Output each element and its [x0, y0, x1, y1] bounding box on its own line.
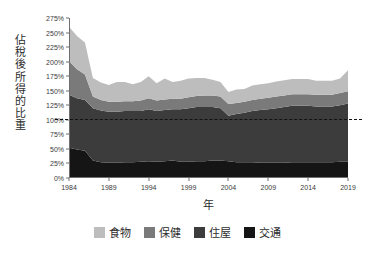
legend-swatch-icon [194, 227, 205, 238]
y-tick-label: 200% [46, 58, 64, 65]
y-tick-label: 250% [46, 29, 64, 36]
x-tick-mark [188, 178, 189, 181]
y-tick-label: 75% [50, 131, 64, 138]
y-tick-mark [66, 32, 69, 33]
x-tick-label: 2019 [340, 184, 356, 191]
legend-swatch-icon [144, 227, 155, 238]
legend-item[interactable]: 住屋 [194, 224, 231, 240]
y-tick-label: 150% [46, 87, 64, 94]
x-tick-label: 1994 [141, 184, 157, 191]
reference-line-100-percent [55, 119, 362, 120]
x-tick-label: 1984 [61, 184, 77, 191]
y-tick-mark [66, 90, 69, 91]
y-axis-title-char: 所 [13, 71, 28, 83]
y-axis-title-char: 後 [13, 58, 28, 70]
plot-area: 0%25%50%75%100%125%150%175%200%225%250%2… [69, 18, 348, 178]
x-tick-mark [268, 178, 269, 181]
y-axis-title: 佔稅後所得的比重 [13, 34, 28, 132]
legend-item[interactable]: 保健 [144, 224, 181, 240]
y-axis-title-char: 佔 [13, 34, 28, 46]
y-tick-mark [66, 47, 69, 48]
x-tick-label: 2004 [221, 184, 237, 191]
x-tick-mark [69, 178, 70, 181]
x-axis-title: 年 [69, 196, 348, 212]
legend-item[interactable]: 食物 [94, 224, 131, 240]
y-tick-mark [66, 134, 69, 135]
x-tick-label: 2014 [300, 184, 316, 191]
chart-legend: 食物保健住屋交通 [0, 224, 375, 240]
y-tick-label: 225% [46, 44, 64, 51]
x-tick-label: 2009 [260, 184, 276, 191]
y-tick-mark [66, 163, 69, 164]
y-axis-title-char: 比 [13, 107, 28, 119]
y-tick-mark [66, 18, 69, 19]
area-series-food [69, 27, 348, 104]
x-tick-mark [348, 178, 349, 181]
y-tick-label: 25% [50, 160, 64, 167]
x-tick-mark [308, 178, 309, 181]
legend-item-label: 保健 [159, 224, 181, 240]
y-tick-label: 50% [50, 145, 64, 152]
y-tick-label: 275% [46, 15, 64, 22]
y-axis-title-char: 重 [13, 119, 28, 131]
legend-item-label: 食物 [109, 224, 131, 240]
y-axis-title-char: 得 [13, 83, 28, 95]
chart-plot-svg [69, 18, 348, 178]
y-tick-label: 175% [46, 73, 64, 80]
legend-item-label: 住屋 [209, 224, 231, 240]
x-tick-mark [228, 178, 229, 181]
y-tick-mark [66, 105, 69, 106]
y-tick-label: 0% [54, 175, 64, 182]
legend-swatch-icon [94, 227, 105, 238]
legend-item[interactable]: 交通 [244, 224, 281, 240]
legend-swatch-icon [244, 227, 255, 238]
y-tick-mark [66, 148, 69, 149]
y-tick-mark [66, 61, 69, 62]
stacked-area-chart-figure: 佔稅後所得的比重 0%25%50%75%100%125%150%175%200%… [0, 0, 375, 258]
x-tick-label: 1999 [181, 184, 197, 191]
legend-item-label: 交通 [259, 224, 281, 240]
y-tick-mark [66, 76, 69, 77]
y-axis-title-char: 稅 [13, 46, 28, 58]
y-axis-title-char: 的 [13, 95, 28, 107]
y-tick-label: 125% [46, 102, 64, 109]
x-tick-mark [148, 178, 149, 181]
x-tick-mark [108, 178, 109, 181]
x-tick-label: 1989 [101, 184, 117, 191]
